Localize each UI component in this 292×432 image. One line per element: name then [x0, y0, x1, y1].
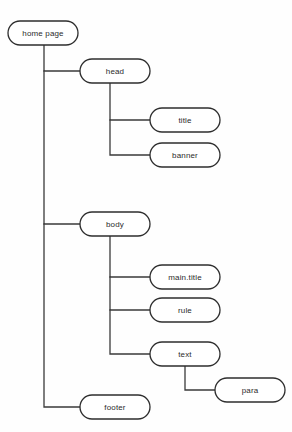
node-label-main_title: main.title	[168, 273, 202, 282]
node-label-banner: banner	[172, 151, 198, 160]
node-label-body: body	[106, 220, 124, 229]
tree-edge-body-to-main_title	[110, 236, 150, 277]
tree-node-banner[interactable]: banner	[150, 143, 220, 167]
node-label-rule: rule	[178, 306, 192, 315]
tree-node-title[interactable]: title	[150, 108, 220, 132]
tree-node-para[interactable]: para	[215, 378, 285, 402]
tree-edge-text-to-para	[185, 366, 215, 390]
tree-edge-home_page-to-head	[44, 45, 80, 71]
tree-node-rule[interactable]: rule	[150, 298, 220, 322]
tree-node-home_page[interactable]: home page	[8, 21, 78, 45]
tree-node-text[interactable]: text	[150, 342, 220, 366]
node-label-para: para	[242, 386, 259, 395]
node-label-head: head	[106, 67, 124, 76]
tree-edge-head-to-title	[110, 83, 150, 120]
tree-node-head[interactable]: head	[80, 59, 150, 83]
diagram-canvas: home pageheadtitlebannerbodymain.titleru…	[0, 0, 292, 432]
tree-node-body[interactable]: body	[80, 212, 150, 236]
tree-edge-home_page-to-footer	[44, 224, 80, 407]
node-label-text: text	[178, 350, 192, 359]
node-label-title: title	[178, 116, 192, 125]
node-label-footer: footer	[104, 403, 126, 412]
tree-diagram: home pageheadtitlebannerbodymain.titleru…	[0, 0, 292, 432]
node-layer: home pageheadtitlebannerbodymain.titleru…	[8, 21, 285, 419]
tree-edge-body-to-rule	[110, 277, 150, 310]
tree-edge-home_page-to-body	[44, 71, 80, 224]
tree-node-footer[interactable]: footer	[80, 395, 150, 419]
node-label-home_page: home page	[22, 29, 64, 38]
tree-edge-head-to-banner	[110, 120, 150, 155]
tree-edge-body-to-text	[110, 310, 150, 354]
tree-node-main_title[interactable]: main.title	[150, 265, 220, 289]
